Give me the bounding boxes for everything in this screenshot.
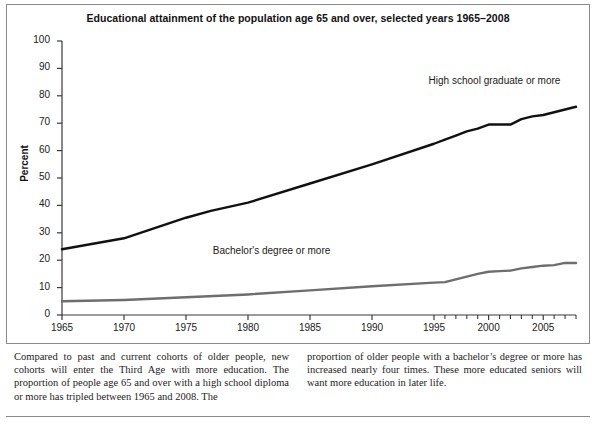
series-line-0 [62, 107, 576, 249]
x-tick-label: 1995 [414, 322, 454, 333]
plot-area: Percent 0102030405060708090100 196519701… [0, 0, 596, 344]
x-tick-label: 1970 [104, 322, 144, 333]
series-line-1 [62, 263, 576, 301]
y-tick-label: 90 [24, 61, 50, 72]
caption-column-right: proportion of older people with a bachel… [307, 350, 582, 420]
x-tick-label: 1985 [290, 322, 330, 333]
y-tick-label: 80 [24, 89, 50, 100]
y-tick-label: 60 [24, 144, 50, 155]
x-tick-label: 1975 [166, 322, 206, 333]
x-tick-label: 1980 [228, 322, 268, 333]
y-tick-label: 50 [24, 171, 50, 182]
caption-block: Compared to past and current cohorts of … [6, 350, 590, 420]
x-tick-label: 1965 [42, 322, 82, 333]
y-tick-label: 20 [24, 253, 50, 264]
y-tick-label: 70 [24, 116, 50, 127]
y-tick-label: 30 [24, 226, 50, 237]
x-tick-label: 1990 [352, 322, 392, 333]
y-tick-label: 40 [24, 198, 50, 209]
data-series [62, 107, 576, 302]
figure-page: Educational attainment of the population… [0, 0, 596, 424]
y-tick-label: 0 [24, 308, 50, 319]
series-label: High school graduate or more [429, 75, 561, 86]
caption-column-left: Compared to past and current cohorts of … [14, 350, 289, 420]
series-label: Bachelor's degree or more [213, 245, 331, 256]
chart-canvas [0, 0, 596, 344]
x-tick-label: 2005 [523, 322, 563, 333]
y-tick-label: 10 [24, 281, 50, 292]
bottom-divider [6, 416, 590, 417]
y-tick-label: 100 [24, 34, 50, 45]
x-tick-label: 2000 [469, 322, 509, 333]
